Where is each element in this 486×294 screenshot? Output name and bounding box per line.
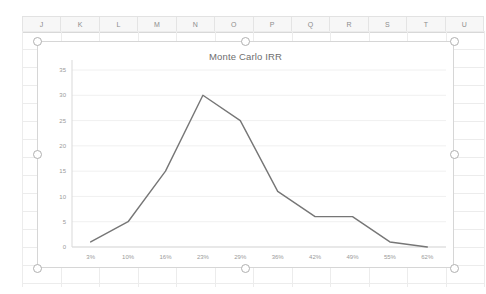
grid-line-vertical bbox=[484, 31, 485, 287]
x-tick-label: 29% bbox=[234, 254, 247, 260]
grid-line-vertical bbox=[22, 31, 23, 287]
y-tick-label: 15 bbox=[59, 168, 66, 174]
y-tick-label: 30 bbox=[59, 92, 66, 98]
x-tick-label: 55% bbox=[384, 254, 397, 260]
worksheet-background: JKLMNOPQRSTU Monte Carlo IRR 05101520253… bbox=[0, 0, 486, 294]
column-header-r[interactable]: R bbox=[330, 17, 368, 32]
handle-top-right[interactable] bbox=[450, 37, 459, 46]
x-tick-label: 42% bbox=[309, 254, 322, 260]
y-tick-label: 0 bbox=[63, 244, 67, 250]
y-tick-label: 10 bbox=[59, 194, 66, 200]
handle-middle-right[interactable] bbox=[450, 150, 459, 159]
column-header-l[interactable]: L bbox=[100, 17, 138, 32]
y-tick-labels: 05101520253035 bbox=[59, 67, 66, 250]
column-header-s[interactable]: S bbox=[369, 17, 407, 32]
y-gridlines bbox=[72, 70, 446, 247]
handle-bottom-center[interactable] bbox=[241, 264, 250, 273]
x-tick-label: 36% bbox=[272, 254, 285, 260]
column-header-p[interactable]: P bbox=[254, 17, 292, 32]
x-tick-label: 62% bbox=[421, 254, 434, 260]
column-header-t[interactable]: T bbox=[407, 17, 445, 32]
column-header-n[interactable]: N bbox=[177, 17, 215, 32]
chart-plot-area: 05101520253035 3%10%16%23%29%36%42%49%55… bbox=[38, 42, 455, 269]
column-header-o[interactable]: O bbox=[215, 17, 253, 32]
chart-object[interactable]: Monte Carlo IRR 05101520253035 3%10%16%2… bbox=[37, 41, 454, 268]
y-tick-label: 35 bbox=[59, 67, 66, 73]
x-tick-label: 49% bbox=[346, 254, 359, 260]
handle-bottom-left[interactable] bbox=[33, 264, 42, 273]
x-tick-label: 3% bbox=[86, 254, 95, 260]
x-tick-label: 16% bbox=[159, 254, 172, 260]
grid-line-horizontal bbox=[22, 31, 484, 32]
column-header-j[interactable]: J bbox=[22, 17, 61, 32]
column-header-m[interactable]: M bbox=[138, 17, 176, 32]
handle-bottom-right[interactable] bbox=[450, 264, 459, 273]
column-header-u[interactable]: U bbox=[446, 17, 484, 32]
x-tick-label: 23% bbox=[197, 254, 210, 260]
column-header-q[interactable]: Q bbox=[292, 17, 330, 32]
handle-top-left[interactable] bbox=[33, 37, 42, 46]
y-tick-label: 5 bbox=[63, 219, 67, 225]
column-header-k[interactable]: K bbox=[61, 17, 99, 32]
y-tick-label: 20 bbox=[59, 143, 66, 149]
grid-line-horizontal bbox=[22, 283, 484, 284]
x-tick-label: 10% bbox=[122, 254, 135, 260]
y-tick-label: 25 bbox=[59, 118, 66, 124]
handle-top-center[interactable] bbox=[241, 37, 250, 46]
x-tick-labels: 3%10%16%23%29%36%42%49%55%62% bbox=[86, 254, 434, 260]
handle-middle-left[interactable] bbox=[33, 150, 42, 159]
